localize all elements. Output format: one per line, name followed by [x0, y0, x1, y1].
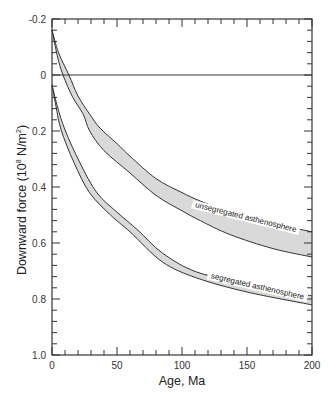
- x-tick-label: 0: [49, 360, 55, 371]
- y-tick-label: 0.2: [32, 126, 46, 137]
- x-axis-title: Age, Ma: [159, 374, 206, 388]
- x-tick-label: 50: [111, 360, 123, 371]
- band-layer: [52, 30, 312, 305]
- x-tick-label: 200: [304, 360, 321, 371]
- y-tick-label: 0: [40, 70, 46, 81]
- y-tick-label: 0.8: [32, 294, 46, 305]
- y-tick-label: 1.0: [32, 350, 46, 361]
- y-tick-label: 0.6: [32, 238, 46, 249]
- y-tick-label: -0.2: [29, 14, 47, 25]
- force-age-chart: 050100150200-0.200.20.40.60.81.0 unsegre…: [0, 0, 328, 401]
- band-label: segregated asthenosphere: [207, 271, 309, 303]
- x-tick-label: 150: [239, 360, 256, 371]
- x-tick-label: 100: [174, 360, 191, 371]
- y-tick-label: 0.4: [32, 182, 46, 193]
- y-axis-title: Downward force (108 N/m2): [15, 125, 29, 275]
